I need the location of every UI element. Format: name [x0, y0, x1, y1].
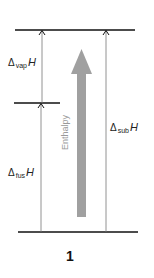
enthalpy-arrow-icon [71, 49, 92, 217]
sublimation-label: ΔsubH [110, 122, 138, 134]
enthalpy-axis-label: Enthalpy [60, 115, 70, 150]
enthalpy-diagram [0, 0, 154, 278]
delta-symbol: Δ [8, 57, 15, 68]
enthalpy-variable: H [26, 166, 34, 178]
subscript-vap: vap [16, 62, 27, 69]
delta-symbol: Δ [8, 167, 15, 178]
enthalpy-variable: H [28, 56, 36, 68]
vaporization-label: ΔvapH [8, 57, 36, 69]
subscript-sub: sub [118, 127, 129, 134]
enthalpy-variable: H [130, 121, 138, 133]
subscript-fus: fus [16, 172, 25, 179]
figure-number: 1 [66, 248, 74, 264]
delta-symbol: Δ [110, 122, 117, 133]
vaporization-arrow-icon [39, 31, 45, 104]
fusion-label: ΔfusH [8, 167, 34, 179]
sublimation-arrow-icon [103, 31, 109, 233]
fusion-arrow-icon [38, 104, 44, 233]
